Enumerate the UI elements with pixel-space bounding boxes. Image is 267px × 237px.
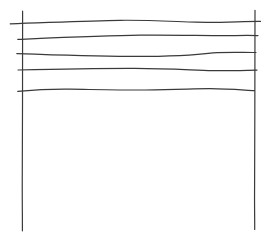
wire-5: [18, 89, 255, 92]
wire-4: [18, 68, 257, 70]
wire-2: [18, 35, 258, 39]
fence-sketch: [0, 0, 267, 237]
wire-3: [17, 52, 256, 56]
sketch-page: [0, 0, 267, 237]
wire-1: [10, 20, 260, 24]
